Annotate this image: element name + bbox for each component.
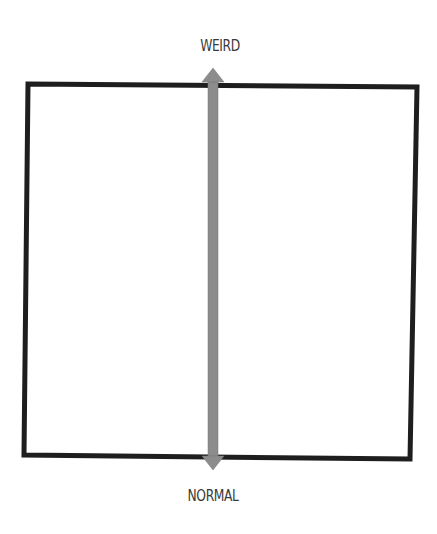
arrow-head-up-icon bbox=[202, 68, 224, 82]
spectrum-diagram bbox=[0, 0, 437, 534]
frame-square bbox=[24, 84, 417, 459]
axis-label-weird: WEIRD bbox=[171, 37, 269, 55]
arrow-head-down-icon bbox=[202, 456, 224, 470]
axis-label-normal: NORMAL bbox=[164, 487, 262, 505]
bidirectional-arrow bbox=[202, 68, 224, 470]
arrow-shaft bbox=[208, 82, 218, 456]
